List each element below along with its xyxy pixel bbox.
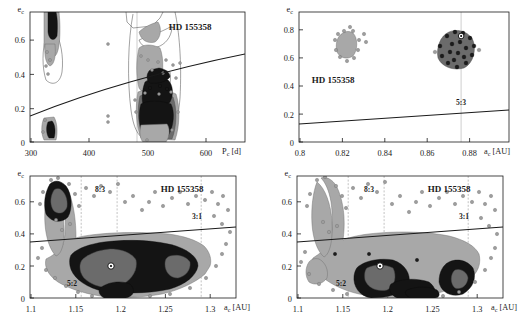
panel-top-left-ylabel: ec [18,5,25,15]
star-name-label: HD 155358 [312,75,355,85]
ytick-label: 0.6 [282,198,292,207]
star-name-label: HD 155358 [161,184,204,194]
xtick-label: 1.25 [425,305,440,314]
cluster-left [336,32,357,59]
panel-top-left-canvas: ec 0 0.2 0.4 0.6 300 400 500 600 [0,0,265,162]
ytick-label: 0.6 [15,36,25,45]
xtick-label: 0.8 [295,149,305,158]
resonance-label-5-2: 5:2 [336,279,346,288]
ytick-label: 0.2 [15,263,25,272]
ytick-label: 0 [288,295,292,304]
xtick-label: 1.2 [382,305,392,314]
figure-root: ec 0 0.2 0.4 0.6 300 400 500 600 [0,0,529,324]
region-dark [48,12,57,39]
panel-bottom-right: ec 0 0.2 0.4 0.6 1.1 1.15 1.2 1.25 1.3 [265,162,529,324]
xtick-label: 400 [83,149,95,158]
panel-top-left-yticks: 0 0.2 0.4 0.6 [15,36,34,148]
ytick-label: 0.6 [15,198,25,207]
panel-bottom-right-xlabel: ac [AU] [491,303,517,313]
panel-top-left: ec 0 0.2 0.4 0.6 300 400 500 600 [0,0,265,162]
region-light [45,44,56,66]
ytick-label: 0.6 [284,54,294,63]
star-name-label: HD 155358 [169,22,212,32]
xtick-label: 0.84 [378,149,393,158]
panel-bottom-left-ylabel: ec [18,169,25,179]
panel-top-right-xticks: 0.8 0.82 0.84 0.86 0.88 [295,138,477,158]
panel-top-left-xlabel: Pc [d] [222,147,241,157]
best-fit-marker [377,263,383,269]
xtick-label: 1.3 [472,305,482,314]
xtick-label: 0.82 [335,149,350,158]
ytick-label: 0.4 [282,230,293,239]
ytick-label: 0.4 [15,71,26,80]
panel-top-left-xticks: 300 400 500 600 [25,138,212,158]
stability-curve [299,110,509,124]
best-fit-marker [108,263,114,269]
xtick-label: 1.1 [293,305,303,314]
xtick-label: 1.2 [115,305,125,314]
panel-top-right-xlabel: ac [AU] [484,147,510,157]
ytick-label: 0.8 [284,26,294,35]
cluster-right [437,30,474,69]
ytick-label: 0.4 [15,230,26,239]
panel-bottom-right-canvas: ec 0 0.2 0.4 0.6 1.1 1.15 1.2 1.25 1.3 [265,162,529,324]
xtick-label: 500 [142,149,154,158]
resonance-label-5-3: 5:3 [456,98,466,107]
xtick-label: 300 [25,149,37,158]
xtick-label: 1.25 [158,305,173,314]
xtick-label: 0.88 [462,149,477,158]
ytick-label: 0.2 [15,105,25,114]
xtick-label: 600 [200,149,212,158]
panel-top-right: ec 0 0.2 0.4 0.6 0.8 0.8 0.82 0.84 0.86 … [265,0,529,162]
panel-top-right-canvas: ec 0 0.2 0.4 0.6 0.8 0.8 0.82 0.84 0.86 … [265,0,529,162]
region-dark [47,121,55,138]
xtick-label: 1.15 [69,305,84,314]
best-fit-marker [458,33,464,39]
resonance-label-3-1: 3:1 [459,212,469,221]
ytick-label: 0.2 [284,111,294,120]
xtick-label: 1.15 [336,305,351,314]
ytick-label: 0 [21,139,25,148]
xtick-label: 1.1 [26,305,36,314]
xtick-label: 1.3 [205,305,215,314]
panel-bottom-left-xlabel: ac [AU] [224,303,250,313]
region-light [140,124,169,142]
ytick-label: 0.4 [284,82,295,91]
resonance-label-8-3: 8:3 [364,185,374,194]
resonance-label-5-2: 5:2 [67,279,77,288]
ytick-label: 0 [290,139,294,148]
region-light [139,22,160,43]
panel-top-right-yticks: 0 0.2 0.4 0.6 0.8 [284,26,303,148]
ytick-label: 0 [21,295,25,304]
resonance-label-3-1: 3:1 [192,212,202,221]
panel-bottom-right-yticks: 0 0.2 0.4 0.6 [282,198,301,303]
panel-top-right-ylabel: ec [287,5,294,15]
panel-bottom-right-ylabel: ec [285,169,292,179]
resonance-label-8-3: 8:3 [95,185,105,194]
xtick-label: 0.86 [420,149,435,158]
ytick-label: 0.2 [282,263,292,272]
panel-bottom-left-canvas: ec 0 0.2 0.4 0.6 1.1 1.15 1.2 1.25 1.3 [0,162,265,324]
panel-bottom-left-yticks: 0 0.2 0.4 0.6 [15,198,34,303]
panel-bottom-left: ec 0 0.2 0.4 0.6 1.1 1.15 1.2 1.25 1.3 [0,162,265,324]
star-name-label: HD 155358 [428,184,471,194]
region-dark-lower [405,287,439,298]
